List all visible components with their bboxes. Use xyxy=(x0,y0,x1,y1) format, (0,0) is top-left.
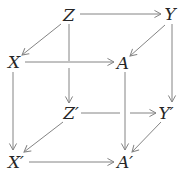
node-label-Z-prime: Z′ xyxy=(62,103,79,123)
edges-layer xyxy=(13,14,172,162)
node-label-X-prime: X′ xyxy=(6,152,24,172)
diagram-canvas: ZYXAZ′Y′X′A′ xyxy=(0,0,188,179)
arrow-Y-prime-to-A-prime-segment-1 xyxy=(132,122,161,152)
arrow-Y-to-A-segment-1 xyxy=(130,25,165,56)
node-label-A-prime: A′ xyxy=(115,152,133,172)
commutative-cube-diagram: ZYXAZ′Y′X′A′ xyxy=(0,0,188,179)
nodes-layer: ZYXAZ′Y′X′A′ xyxy=(6,4,177,172)
arrow-Z-prime-to-X-prime xyxy=(24,122,63,152)
node-label-Y: Y xyxy=(164,4,177,24)
arrow-Z-prime-to-X-prime-segment-1 xyxy=(24,122,63,152)
node-label-Y-prime: Y′ xyxy=(158,103,173,123)
arrow-Z-to-X xyxy=(22,24,61,55)
arrow-Z-to-X-segment-1 xyxy=(22,24,61,55)
arrow-Y-to-A xyxy=(130,25,165,56)
node-label-X: X xyxy=(6,52,21,72)
node-label-A: A xyxy=(115,53,129,73)
node-label-Z: Z xyxy=(62,5,76,25)
arrow-Y-prime-to-A-prime xyxy=(132,122,161,152)
